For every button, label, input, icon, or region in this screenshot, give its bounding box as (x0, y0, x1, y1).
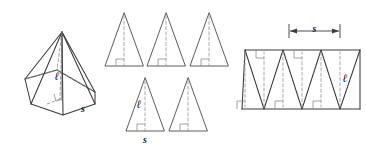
figure-canvas: ℓ s (0, 0, 366, 149)
pyramid-slant-height-label: ℓ (55, 70, 60, 82)
net-slant-height-label: ℓ (343, 72, 348, 84)
hexagonal-pyramid-panel: ℓ s (25, 32, 95, 115)
net-right-angle-top-1 (256, 50, 264, 58)
face-triangle-2 (147, 13, 185, 66)
face-4-base-edge-label: s (142, 134, 147, 145)
net-dimension-arrow-left (290, 29, 297, 34)
separated-faces-panel: ℓ s (105, 13, 228, 145)
net-dimension-arrow-right (332, 29, 339, 34)
net-dimension-s: s (289, 23, 340, 38)
face-triangle-3 (190, 13, 228, 66)
net-right-angle-bottom-1 (237, 101, 245, 109)
face-triangle-1 (105, 13, 143, 66)
net-left-edge (242, 50, 245, 109)
face-triangle-5 (169, 78, 207, 131)
net-right-angle-top-2 (294, 50, 302, 58)
face-triangle-4: ℓ s (126, 78, 164, 145)
net-base-edge-label: s (312, 23, 317, 34)
geometry-figure: ℓ s (0, 0, 366, 149)
face-4-slant-height-label: ℓ (137, 98, 142, 110)
net-right-angle-bottom-2 (275, 101, 283, 109)
net-right-angle-bottom-3 (313, 101, 321, 109)
pyramid-base-edge-label: s (80, 103, 85, 114)
lateral-net-panel: s ℓ (237, 23, 360, 109)
